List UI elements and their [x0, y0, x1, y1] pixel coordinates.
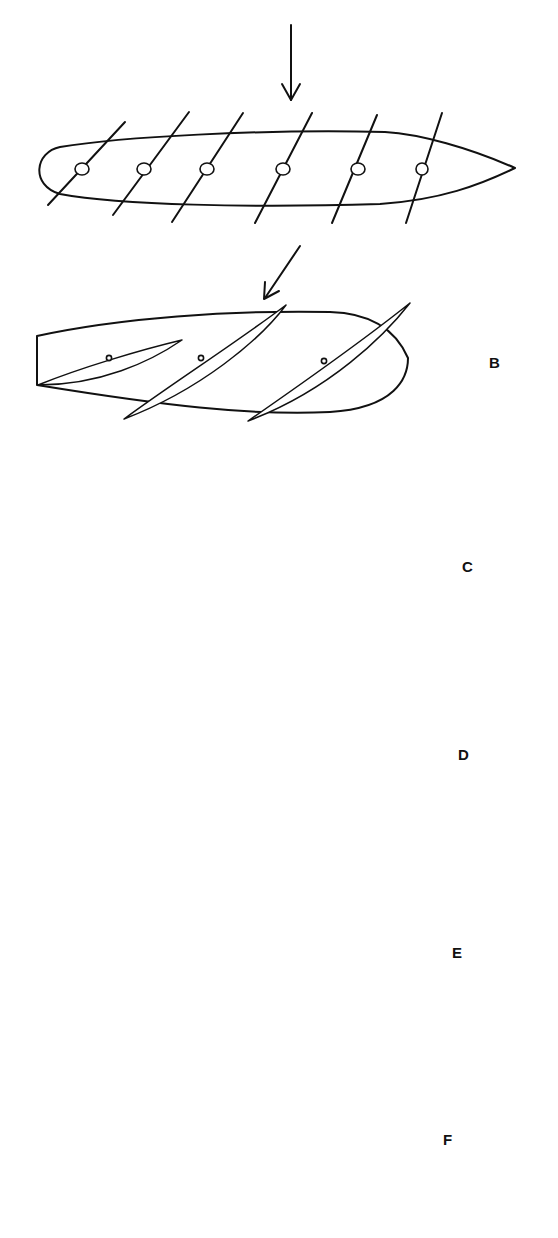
arrow-down-left-icon	[264, 246, 300, 299]
panel-a	[39, 25, 515, 223]
panel-label-d: D	[458, 746, 469, 763]
pivot-icons	[75, 163, 428, 175]
panel-label-c: C	[462, 558, 473, 575]
blades	[38, 303, 410, 421]
panel-label-e: E	[452, 944, 462, 961]
panel-label-b: B	[489, 354, 500, 371]
diagram-canvas	[0, 0, 558, 1238]
arrow-down-icon	[282, 25, 300, 100]
panel-label-f: F	[443, 1131, 452, 1148]
panel-b	[37, 246, 410, 421]
